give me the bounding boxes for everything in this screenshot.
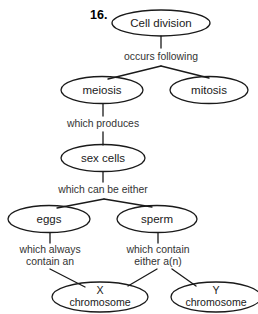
link-label-which-contain-either-an-line2: either a(n) — [134, 256, 181, 267]
link-label-which-always-contain-an-line2: contain an — [26, 256, 74, 267]
node-label-eggs: eggs — [37, 213, 62, 225]
connector-which-contain-either-an-to-x-chromosome — [128, 269, 157, 286]
node-label-x-chromosome-line1: X — [96, 284, 103, 296]
node-label-meiosis: meiosis — [83, 84, 122, 96]
node-label-mitosis: mitosis — [191, 84, 227, 96]
node-label-x-chromosome-line2: chromosome — [69, 296, 130, 308]
concept-map-diagram: 16. Cell division meiosis mitosis sex ce… — [0, 0, 258, 314]
link-label-which-always-contain-an-line1: which always — [18, 244, 80, 255]
connector-which-always-contain-an-to-x-chromosome — [50, 269, 85, 287]
link-label-occurs-following: occurs following — [124, 51, 198, 62]
connector-which-contain-either-an-to-y-chromosome — [172, 269, 196, 286]
node-label-y-chromosome-line2: chromosome — [185, 296, 246, 308]
link-label-which-contain-either-an-line1: which contain — [126, 244, 190, 255]
link-label-which-produces: which produces — [66, 118, 139, 129]
node-label-y-chromosome-line1: Y — [212, 284, 219, 296]
node-label-sperm: sperm — [141, 213, 173, 225]
node-label-sex-cells: sex cells — [81, 152, 125, 164]
item-number: 16. — [90, 8, 107, 22]
link-label-which-can-be-either: which can be either — [57, 184, 148, 195]
concept-map-canvas: 16. Cell division meiosis mitosis sex ce… — [0, 0, 258, 314]
node-label-cell-division: Cell division — [130, 17, 191, 29]
